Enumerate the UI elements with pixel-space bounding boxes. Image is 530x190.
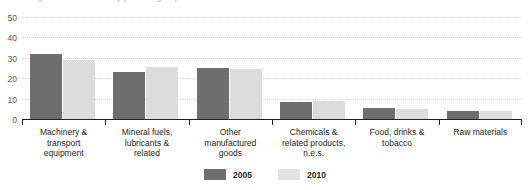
legend-label: 2005 <box>233 170 252 180</box>
bar-2010 <box>313 101 345 119</box>
x-axis-divider-tick <box>272 119 273 125</box>
x-axis-divider-tick <box>189 119 190 125</box>
x-axis-category-label: Chemicals &related products,n.e.s. <box>272 127 355 159</box>
category-label-line: manufactured <box>189 138 272 149</box>
category-label-line: n.e.s. <box>272 148 355 159</box>
y-axis-tick-label: 40 <box>8 33 17 43</box>
category-label-line: equipment <box>22 148 105 159</box>
bar-2005 <box>280 102 312 119</box>
chart-legend: 20052010 <box>0 169 530 180</box>
category-label-line: Machinery & <box>22 127 105 138</box>
x-axis-category-label: Machinery &transportequipment <box>22 127 105 159</box>
bar-2010 <box>396 109 428 119</box>
legend-swatch <box>278 169 300 180</box>
category-label-line: Food, drinks & <box>355 127 438 138</box>
category-label-line: transport <box>22 138 105 149</box>
category-label-line: related <box>105 148 188 159</box>
bar-2005 <box>447 111 479 119</box>
bar-group <box>189 17 272 119</box>
category-label-line: tobacco <box>355 138 438 149</box>
category-label-line: Raw materials <box>439 127 522 138</box>
bar-2005 <box>30 54 62 119</box>
category-label-line: Chemicals & <box>272 127 355 138</box>
x-axis-divider-tick <box>439 119 440 125</box>
category-label-line: lubricants & <box>105 138 188 149</box>
y-axis-tick-label: 0 <box>12 115 17 125</box>
bar-group <box>272 17 355 119</box>
plot-area: 01020304050 <box>22 17 522 119</box>
category-label-line: Mineral fuels, <box>105 127 188 138</box>
bar-chart: Trade in goods with the EU by product gr… <box>0 0 530 190</box>
x-axis-category-label: Food, drinks &tobacco <box>355 127 438 148</box>
bar-group <box>105 17 188 119</box>
x-axis-divider-tick <box>355 119 356 125</box>
bar-2005 <box>197 68 229 119</box>
bar-2005 <box>363 108 395 119</box>
legend-swatch <box>204 169 226 180</box>
x-axis-divider-tick <box>105 119 106 125</box>
category-label-line: Other <box>189 127 272 138</box>
bar-group <box>22 17 105 119</box>
bar-group <box>439 17 522 119</box>
x-axis-category-label: Othermanufacturedgoods <box>189 127 272 159</box>
x-axis-cap-right <box>521 119 522 125</box>
chart-title: Trade in goods with the EU by product gr… <box>4 0 179 2</box>
bar-2005 <box>113 72 145 119</box>
legend-item[interactable]: 2005 <box>204 169 252 180</box>
y-axis-tick-label: 50 <box>8 13 17 23</box>
x-axis-category-label: Mineral fuels,lubricants &related <box>105 127 188 159</box>
x-axis-category-label: Raw materials <box>439 127 522 138</box>
bar-group <box>355 17 438 119</box>
y-axis-tick-label: 30 <box>8 54 17 64</box>
x-axis-cap-left <box>22 119 23 125</box>
category-label-line: related products, <box>272 138 355 149</box>
bar-2010 <box>146 67 178 119</box>
legend-label: 2010 <box>307 170 326 180</box>
y-axis-tick-label: 10 <box>8 95 17 105</box>
bar-2010 <box>480 111 512 119</box>
category-label-line: goods <box>189 148 272 159</box>
legend-item[interactable]: 2010 <box>278 169 326 180</box>
y-axis-tick-label: 20 <box>8 74 17 84</box>
bar-2010 <box>230 69 262 119</box>
bar-2010 <box>63 60 95 119</box>
